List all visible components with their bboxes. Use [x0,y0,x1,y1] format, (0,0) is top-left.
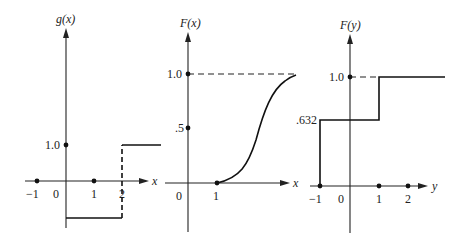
step-cdf [320,77,445,186]
panel-g: g(x) x −1 0 1 2 1.0 [25,12,161,228]
y-axis-label: F(y) [339,18,361,32]
x-axis-label: y [431,179,438,193]
point-y-1 [348,75,353,80]
point-y-half [186,126,191,131]
x-tick-1: 1 [91,187,97,201]
x-tick-0: 0 [176,189,182,203]
y-tick-half: .5 [175,121,184,135]
point-y-1 [64,143,69,148]
y-axis-label: g(x) [56,12,75,26]
x-tick-0: 0 [53,187,59,201]
x-tick-neg1: −1 [26,187,39,201]
panel-Fx: F(x) x 1.0 .5 0 1 [165,16,299,232]
y-tick-632: .632 [296,113,317,127]
x-axis-arrow-icon [139,178,149,184]
y-tick-1: 1.0 [45,138,60,152]
point-x-neg1 [35,179,40,184]
cdf-curve [217,75,296,183]
y-tick-1: 1.0 [167,67,182,81]
x-tick-1: 1 [376,192,382,206]
figure: g(x) x −1 0 1 2 1.0 F(x) x 1.0 .5 0 1 [0,0,465,247]
x-tick-2: 2 [405,192,411,206]
x-axis-arrow-icon [280,180,290,186]
x-tick-0: 0 [338,192,344,206]
y-axis-label: F(x) [179,16,201,30]
x-axis-label: x [292,176,299,190]
x-tick-neg1: −1 [309,192,322,206]
y-axis-arrow-icon [185,32,191,42]
x-tick-1: 1 [213,189,219,203]
x-axis-arrow-icon [418,183,428,189]
point-x-1 [377,184,382,189]
x-axis-label: x [151,174,158,188]
point-x-1 [92,179,97,184]
y-axis-arrow-icon [63,28,69,38]
y-tick-1: 1.0 [329,70,344,84]
y-axis-arrow-icon [347,34,353,44]
point-y-1 [186,72,191,77]
panel-Fy: F(y) y 1.0 .632 −1 0 1 2 [296,18,445,233]
point-x-2 [406,184,411,189]
